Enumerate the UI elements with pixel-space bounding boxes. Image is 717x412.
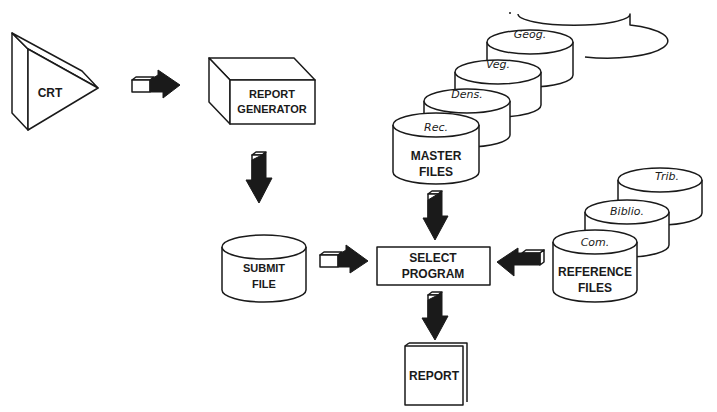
reference-files-node: Trib. Biblio. Com. REFERENCE FILES [553, 168, 702, 302]
report-node: REPORT [405, 343, 467, 405]
arrow-submit-file-to-select-program [320, 245, 368, 273]
master-stack-label: Rec. [424, 121, 448, 134]
reference-files-label-line1: REFERENCE [558, 265, 632, 279]
master-files-label-line1: MASTER [411, 149, 462, 163]
submit-file-node: SUBMIT FILE [222, 235, 306, 302]
master-files-label-line2: FILES [419, 165, 453, 179]
reference-files-label-line2: FILES [578, 281, 612, 295]
reference-stack-label: Com. [581, 236, 610, 249]
arrow-reference-files-to-select-program [497, 248, 544, 276]
crt-label: CRT [38, 86, 63, 100]
master-stack-label: Veg. [486, 58, 510, 71]
select-program-label-line1: SELECT [409, 251, 457, 265]
report-label: REPORT [409, 369, 460, 383]
report-generator-label-line2: GENERATOR [237, 103, 306, 115]
flowchart-canvas: CRT REPORT GENERATOR SUBMIT FILE [0, 0, 717, 412]
arrow-report-generator-to-submit-file [246, 152, 272, 203]
select-program-node: SELECT PROGRAM [377, 247, 490, 285]
select-program-label-line2: PROGRAM [402, 267, 465, 281]
crt-node: CRT [12, 33, 98, 130]
submit-file-label-line1: SUBMIT [243, 262, 285, 274]
arrow-master-files-to-select-program [423, 191, 448, 240]
arrow-crt-to-report-generator [132, 70, 180, 98]
report-generator-node: REPORT GENERATOR [209, 58, 315, 124]
arrow-select-program-to-report [422, 292, 448, 340]
submit-file-label-line2: FILE [252, 278, 276, 290]
report-generator-label-line1: REPORT [249, 88, 295, 100]
master-stack-label: Dens. [451, 88, 482, 101]
master-stack-label: Geog. [514, 28, 547, 41]
reference-stack-label: Biblio. [610, 205, 644, 218]
reference-stack-label: Trib. [655, 170, 679, 183]
master-files-node: Geog. Veg. Dens. Rec. MASTER FILES [393, 12, 668, 184]
